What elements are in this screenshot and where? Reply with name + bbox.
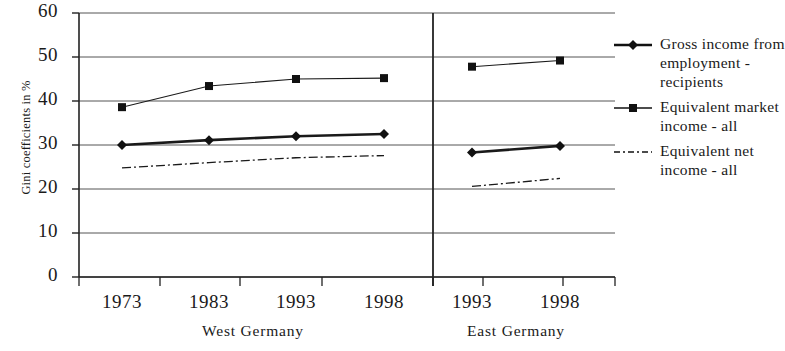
legend-label: Equivalent net income - all (660, 141, 785, 179)
data-point-marker (292, 75, 300, 83)
y-axis-tick-label: 30 (14, 132, 58, 154)
legend-entry: Equivalent net income - all (612, 141, 785, 179)
data-point-marker (380, 74, 388, 82)
data-point-marker (117, 140, 127, 150)
data-point-marker (555, 141, 565, 151)
line-diamond-marker-icon (612, 37, 654, 53)
series-line (472, 178, 560, 186)
data-point-marker (118, 103, 126, 111)
legend-entry: Equivalent market income - all (612, 97, 785, 135)
series-line (472, 146, 560, 153)
y-axis-tick-label: 50 (14, 44, 58, 66)
legend-label: Equivalent market income - all (660, 97, 785, 135)
line-dash-dot-icon (612, 144, 654, 160)
y-axis-tick-label: 0 (14, 264, 58, 286)
y-axis-tick-label: 60 (14, 0, 58, 22)
x-axis-tick-label: 1983 (164, 291, 254, 313)
series-line (122, 134, 384, 145)
x-axis-tick-label: 1973 (77, 291, 167, 313)
y-axis-tick-label: 20 (14, 176, 58, 198)
data-point-marker (468, 63, 476, 71)
chart-legend: Gross income from employment - recipient… (612, 34, 785, 185)
y-axis-tick-label: 40 (14, 88, 58, 110)
series-line (472, 61, 560, 67)
series-line (122, 78, 384, 107)
x-axis-group-label: East Germany (386, 322, 646, 340)
x-axis-tick-label: 1998 (515, 291, 605, 313)
data-point-marker (205, 82, 213, 90)
x-axis-group-label: West Germany (123, 322, 383, 340)
data-point-marker (291, 131, 301, 141)
series-line (122, 156, 384, 168)
data-point-marker (556, 57, 564, 65)
x-axis-tick-label: 1998 (339, 291, 429, 313)
line-square-marker-icon (612, 100, 654, 116)
x-axis-tick-label: 1993 (427, 291, 517, 313)
gini-coefficients-line-chart: Gini coefficients in % 6050403020100 197… (0, 0, 785, 351)
legend-label: Gross income from employment - recipient… (660, 34, 785, 91)
y-axis-tick-label: 10 (14, 220, 58, 242)
data-point-marker (467, 147, 477, 157)
legend-entry: Gross income from employment - recipient… (612, 34, 785, 91)
data-point-marker (379, 129, 389, 139)
x-axis-tick-label: 1993 (251, 291, 341, 313)
data-point-marker (204, 135, 214, 145)
